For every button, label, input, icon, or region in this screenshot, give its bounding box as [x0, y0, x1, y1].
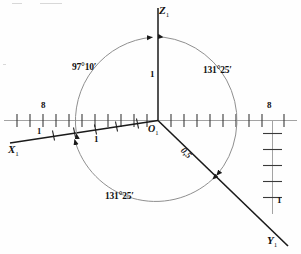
axis-label-y: Y1	[267, 235, 277, 249]
arc-angle-z-to-y	[164, 37, 237, 175]
axis-y-ray	[158, 121, 288, 247]
axis-label-z: Z1	[159, 5, 169, 19]
axis-x-ray	[10, 119, 158, 144]
angle-label-x-to-z: 97°10′	[72, 63, 96, 73]
figure-canvas: Z1 X1 Y1 O1 97°10′ 131°25′ 131°25′ 1 1 0…	[0, 0, 301, 254]
distance-label-z: 1	[150, 70, 155, 79]
origin-label: O1	[148, 124, 158, 137]
angle-label-y-to-x: 131°25′	[105, 192, 134, 202]
arc-angle-y-to-x	[75, 140, 213, 202]
angle-label-z-to-y: 131°25′	[203, 66, 232, 76]
distance-label-x: 1	[94, 135, 99, 144]
scalebar-left-top-label: 8	[41, 101, 46, 110]
scalebar-right-top-label: 8	[267, 101, 272, 110]
scalebar-left-bottom-label: 1	[37, 127, 41, 136]
scalebar-vertical-bottom-label: 1	[277, 196, 282, 205]
arc-angle-x-to-z	[75, 37, 152, 133]
axis-label-x: X1	[8, 144, 19, 158]
